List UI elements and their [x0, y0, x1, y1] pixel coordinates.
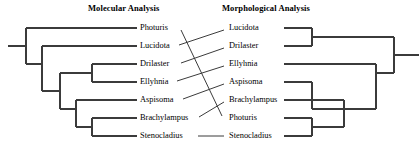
right-taxon-label-5: Brachylampus [228, 95, 278, 104]
right-taxon-label-6: Photuris [228, 113, 258, 122]
connector-Aspisoma [183, 84, 224, 99]
connector-lines-layer [0, 0, 419, 146]
connector-Lucidota [179, 30, 224, 45]
right-taxon-label-1: Lucidota [228, 23, 260, 32]
connector-Ellyhnia [177, 66, 224, 81]
connector-Brachylampus [199, 102, 224, 117]
left-taxon-label-2: Lucidota [139, 41, 171, 50]
left-taxon-label-6: Brachylampus [139, 113, 189, 122]
left-taxon-label-7: Stenocladius [139, 131, 184, 140]
right-taxon-label-4: Aspisoma [228, 77, 264, 86]
left-taxon-label-3: Drilaster [139, 59, 170, 68]
cladogram-figure: Molecular Analysis Morphological Analysi… [0, 0, 419, 146]
left-taxon-label-4: Ellyhnia [139, 77, 169, 86]
left-taxon-label-5: Aspisoma [139, 95, 175, 104]
right-taxon-label-3: Ellyhnia [228, 59, 258, 68]
connector-Drilaster [181, 48, 224, 63]
connector-Photuris [181, 30, 222, 116]
left-taxon-label-1: Photuris [139, 23, 169, 32]
right-taxon-label-7: Stenocladius [228, 131, 273, 140]
right-taxon-label-2: Drilaster [228, 41, 259, 50]
